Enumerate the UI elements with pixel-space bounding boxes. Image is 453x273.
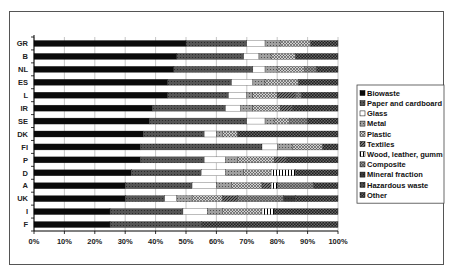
bar-segment-mineral-fraction [283,196,295,202]
bar-GR [34,40,338,46]
category-label: IR [21,104,29,113]
bar-segment-plastic [253,105,280,111]
bar-segment-biowaste [34,222,110,228]
bar-segment-plastic [274,118,289,124]
bar-segment-textiles [280,105,292,111]
legend-swatch [360,101,365,106]
bar-segment-other [298,79,338,85]
category-label: SE [18,117,28,126]
bar-segment-plastic [253,92,277,98]
bar-segment-metal [277,144,292,150]
bar-segment-paper-and-cardboard [168,79,232,85]
bar-segment-metal [207,209,222,215]
x-tick-label: 80% [270,237,285,246]
bar-DK [34,131,338,137]
category-label: FI [21,143,28,152]
bar-segment-other [317,66,338,72]
bar-segment-glass [247,118,265,124]
bar-segment-paper-and-cardboard [177,53,244,59]
bar-segment-metal [265,40,280,46]
bar-segment-biowaste [34,53,177,59]
legend-swatch [360,142,365,147]
bar-B [34,53,338,59]
category-label: UK [17,194,28,203]
bar-segment-textiles [222,196,237,202]
category-label: GR [17,39,29,48]
bar-segment-metal [177,196,192,202]
bar-segment-biowaste [34,144,140,150]
bar-segment-other [308,118,338,124]
bar-segment-composite [295,92,301,98]
category-label: ES [18,78,28,87]
bar-segment-composite [238,196,284,202]
bar-segment-glass [247,40,265,46]
bar-ES [34,79,338,85]
bar-segment-paper-and-cardboard [110,209,183,215]
bar-segment-other [311,40,338,46]
bars [34,40,338,227]
bar-segment-biowaste [34,131,143,137]
legend-swatch [360,193,365,198]
bar-segment-paper-and-cardboard [153,105,226,111]
bar-segment-glass [232,79,253,85]
bar-D [34,170,338,176]
bar-segment-biowaste [34,79,168,85]
bar-segment-glass [226,105,241,111]
bar-UK [34,196,338,202]
bar-L [34,92,338,98]
bar-segment-paper-and-cardboard [174,66,253,72]
bar-segment-plastic [277,66,304,72]
category-label: D [23,169,29,178]
bar-segment-biowaste [34,105,153,111]
legend-label: Paper and cardboard [367,99,442,108]
legend-swatch [360,152,365,157]
bar-segment-paper-and-cardboard [140,157,204,163]
bar-segment-composite [289,118,307,124]
x-tick-label: 20% [87,237,102,246]
bar-segment-glass [262,144,277,150]
bar-segment-plastic [244,170,271,176]
category-label: A [23,181,29,190]
bar-segment-glass [183,209,207,215]
category-label: F [23,220,28,229]
bar-segment-plastic [265,79,298,85]
bar-segment-paper-and-cardboard [168,92,229,98]
bar-segment-other [314,183,338,189]
bar-segment-biowaste [34,66,174,72]
bar-segment-biowaste [34,170,131,176]
category-label: I [26,207,28,216]
x-tick-label: 30% [118,237,133,246]
bar-segment-biowaste [34,196,125,202]
bar-segment-paper-and-cardboard [150,118,247,124]
legend-label: Other [367,191,387,200]
bar-segment-plastic [222,209,262,215]
bar-segment-paper-and-cardboard [125,183,192,189]
bar-segment-other [323,144,338,150]
legend-swatch [360,162,365,167]
legend-swatch [360,131,365,136]
bar-segment-textiles [262,183,271,189]
legend-item: Mineral fraction [360,170,423,179]
bar-segment-metal [216,131,222,137]
x-tick-label: 100% [328,237,348,246]
x-tick-label: 10% [57,237,72,246]
bar-segment-biowaste [34,118,150,124]
bar-segment-glass [201,170,225,176]
bar-segment-glass [165,196,177,202]
legend-label: Wood, leather, gumm [367,150,443,159]
bar-segment-wood-leather-gumm [271,170,295,176]
bar-segment-other [238,131,338,137]
x-tick-labels: 0%10%20%30%40%50%60%70%80%90%100% [29,237,348,246]
bar-segment-metal [226,157,238,163]
bar-segment-biowaste [34,157,140,163]
stacked-bar-chart: GRBNLESLIRSEDKFIPDAUKIF 0%10%20%30%40%50… [0,0,453,273]
bar-segment-metal [216,183,231,189]
bar-segment-plastic [238,157,274,163]
bar-segment-biowaste [34,183,125,189]
bar-segment-paper-and-cardboard [140,144,262,150]
legend-label: Hazardous waste [367,181,428,190]
legend-label: Mineral fraction [367,170,423,179]
bar-FI [34,144,338,150]
bar-segment-biowaste [34,92,168,98]
bar-A [34,183,338,189]
